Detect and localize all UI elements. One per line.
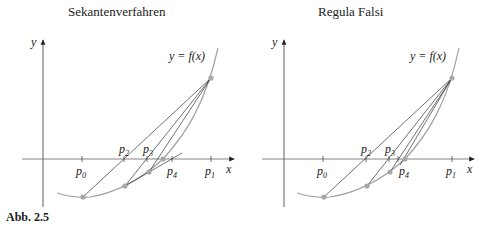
x-axis-label: x <box>225 162 232 176</box>
svg-text:x: x <box>466 162 473 176</box>
y-axis-label: y <box>30 35 37 49</box>
secant-panel: y x y = f(x) p0 p1 p2 p3 p4 <box>22 35 234 207</box>
svg-text:p2: p2 <box>118 142 129 158</box>
svg-text:y: y <box>271 35 278 49</box>
svg-text:p4: p4 <box>166 164 177 180</box>
svg-text:p1: p1 <box>204 164 215 180</box>
svg-text:p3: p3 <box>384 142 395 158</box>
curve-label: y = f(x) <box>168 49 205 63</box>
svg-text:p2: p2 <box>360 142 371 158</box>
svg-text:p4: p4 <box>398 164 409 180</box>
svg-text:p0: p0 <box>75 164 86 180</box>
svg-text:p3: p3 <box>142 142 153 158</box>
diagram: y x y = f(x) p0 p1 p2 p3 p4 y x y = f(x <box>0 0 493 229</box>
figure-caption: Abb. 2.5 <box>6 210 49 225</box>
svg-text:y = f(x): y = f(x) <box>409 49 446 63</box>
svg-text:p0: p0 <box>316 164 327 180</box>
regula-falsi-panel: y x y = f(x) p0 p1 p2 p3 p4 <box>262 35 474 207</box>
svg-text:p1: p1 <box>445 164 456 180</box>
